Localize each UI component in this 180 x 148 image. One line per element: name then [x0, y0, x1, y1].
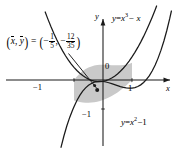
- x-axis-tick-label-1: 1: [128, 84, 132, 93]
- centroid-y-symbol: y: [20, 37, 24, 47]
- parabola-label-tail: −1: [137, 117, 147, 127]
- centroid-y-denominator: 35: [66, 41, 75, 50]
- x-axis-arrow: [164, 78, 171, 83]
- centroid-x-symbol: x: [11, 37, 15, 47]
- centroid-comma-2: ,: [55, 36, 57, 46]
- plot-canvas: [0, 0, 180, 148]
- y-axis-name-label: y: [95, 12, 99, 21]
- centroid-x-sign: −: [43, 36, 48, 46]
- centroid-comma-1: ,: [15, 36, 17, 46]
- y-axis-arrow: [101, 19, 106, 26]
- centroid-label: (x, y) = (−15, −1235): [6, 33, 81, 50]
- centroid-point: [95, 88, 99, 92]
- centroid-point-upper: [93, 84, 96, 87]
- centroid-value-paren-open: (: [39, 36, 43, 50]
- y-axis-tick-label-neg1: −1: [82, 110, 91, 119]
- x-axis-tick-label-neg1: −1: [33, 83, 42, 92]
- centroid-value-paren-close: ): [76, 36, 80, 50]
- centroid-paren-close: ): [24, 36, 28, 50]
- curve-label-parabola: y=x2−1: [121, 118, 147, 127]
- centroid-equals: =: [31, 36, 36, 46]
- cubic-label-tail: − x: [128, 13, 140, 23]
- curve-label-cubic: y=x3− x: [112, 14, 140, 23]
- centroid-paren-open: (: [6, 36, 10, 50]
- origin-label: 0: [105, 62, 109, 71]
- centroid-y-numerator: 12: [66, 33, 75, 41]
- centroid-y-fraction: 1235: [66, 33, 75, 49]
- centroid-figure: (x, y) = (−15, −1235) y=x3− x y=x2−1 −1 …: [0, 0, 180, 148]
- x-axis-name-label: x: [166, 84, 170, 93]
- centroid-y-sign: −: [60, 36, 65, 46]
